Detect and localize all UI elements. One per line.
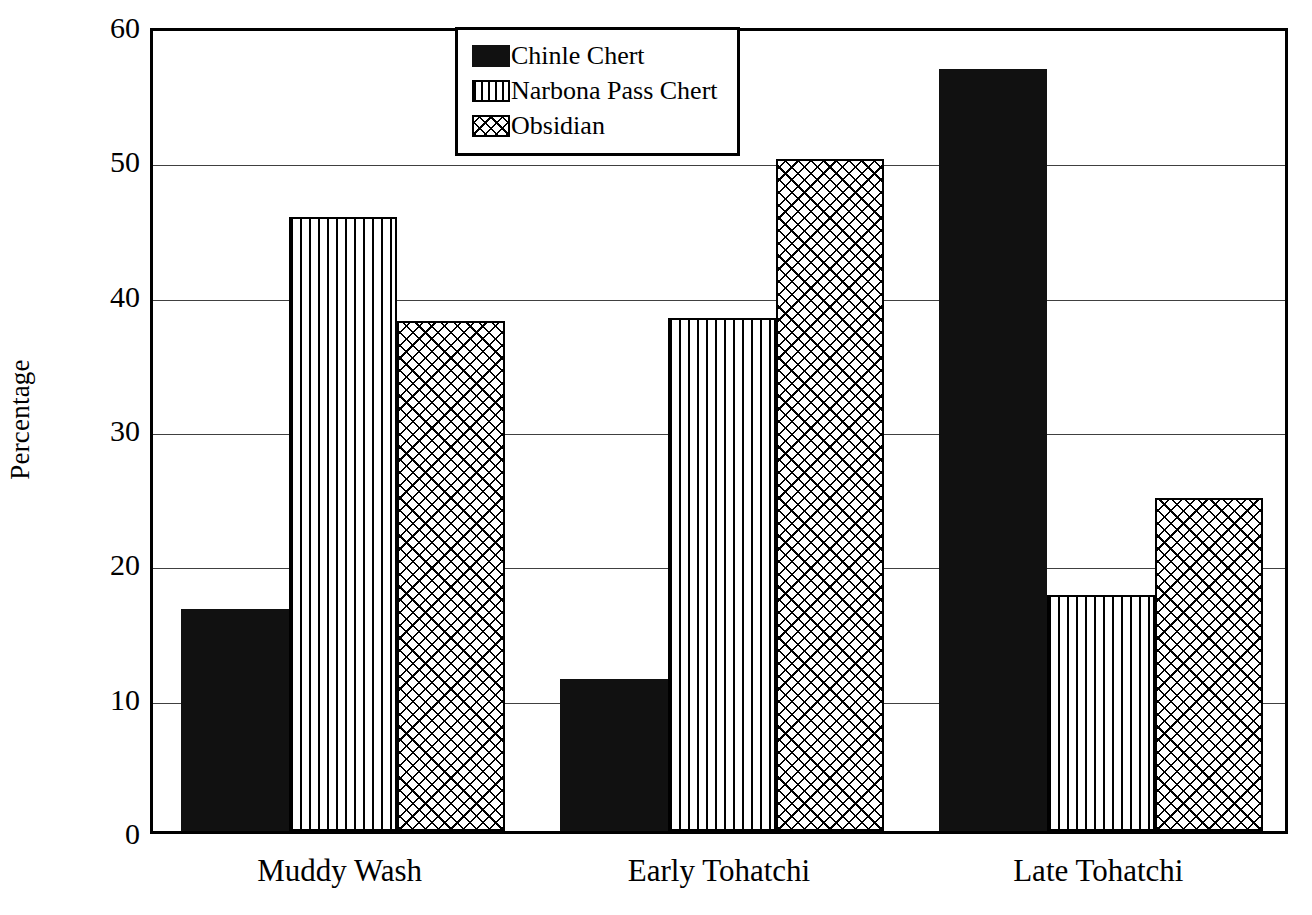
x-axis-category-label: Early Tohatchi	[628, 855, 810, 886]
y-axis-tick-label: 40	[70, 282, 140, 312]
bar	[397, 321, 505, 831]
bar-chart: Percentage 0102030405060 Chinle ChertNar…	[0, 0, 1312, 915]
bar	[939, 69, 1047, 831]
legend-swatch-icon	[472, 80, 510, 102]
bar	[776, 159, 884, 831]
legend-item-label: Obsidian	[510, 113, 605, 139]
x-axis-category-labels: Muddy WashEarly TohatchiLate Tohatchi	[150, 855, 1288, 905]
legend-item-label: Chinle Chert	[510, 43, 645, 69]
legend-item: Narbona Pass Chert	[472, 73, 723, 108]
bar	[1155, 498, 1263, 831]
legend-swatch-icon	[472, 115, 510, 137]
bar	[181, 609, 289, 831]
y-axis-tick-labels: 0102030405060	[30, 0, 140, 915]
legend-item: Obsidian	[472, 108, 723, 143]
y-axis-tick-label: 60	[70, 13, 140, 43]
legend-swatch-icon	[472, 45, 510, 67]
bar	[560, 679, 668, 831]
y-axis-tick-label: 50	[70, 147, 140, 177]
y-axis-tick-label: 0	[70, 819, 140, 849]
legend-item-label: Narbona Pass Chert	[510, 78, 718, 104]
x-axis-category-label: Muddy Wash	[257, 855, 422, 886]
y-axis-tick-label: 30	[70, 416, 140, 446]
bar	[289, 217, 397, 831]
bar	[1047, 595, 1155, 831]
y-axis-tick-label: 10	[70, 685, 140, 715]
legend: Chinle ChertNarbona Pass ChertObsidian	[455, 27, 740, 156]
bar	[668, 318, 776, 831]
legend-item: Chinle Chert	[472, 38, 723, 73]
y-axis-tick-label: 20	[70, 550, 140, 580]
x-axis-category-label: Late Tohatchi	[1013, 855, 1183, 886]
